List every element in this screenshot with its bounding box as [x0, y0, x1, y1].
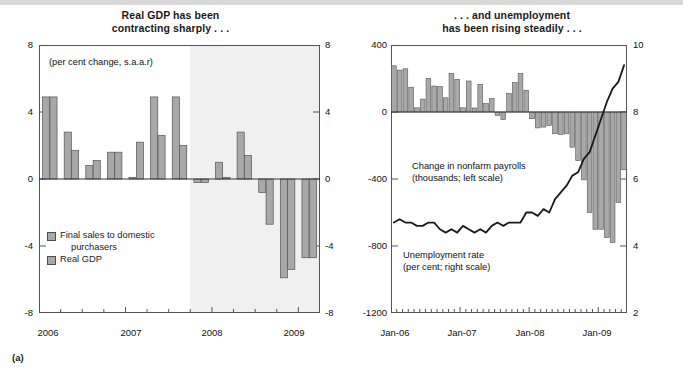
gdp-chart-panel: Real GDP has been contracting sharply . …	[0, 0, 341, 374]
labour-ytick-left-neg800: -800	[343, 241, 387, 251]
gdp-chart-svg	[39, 45, 320, 313]
gdp-xtick-2009: 2009	[271, 328, 317, 338]
gdp-ytick-right-neg8: -8	[325, 308, 333, 318]
labour-chart-panel: . . . and unemployment has been rising s…	[341, 0, 683, 374]
gdp-ytick-left-neg8: -8	[8, 308, 33, 318]
labour-chart-title-line2: has been rising steadily . . .	[341, 22, 683, 35]
unemployment-annotation: Unemployment rate (per cent; right scale…	[403, 250, 490, 273]
gdp-xtick-2008: 2008	[189, 328, 235, 338]
payrolls-annotation-line1: Change in nonfarm payrolls	[412, 161, 526, 171]
labour-xtick-jan07: Jan-07	[436, 328, 488, 338]
gdp-ytick-right-neg4: -4	[325, 241, 333, 251]
labour-ytick-right-4: 4	[633, 241, 638, 251]
gdp-xtick-2007: 2007	[108, 328, 154, 338]
gdp-chart-title-line1: Real GDP has been	[122, 9, 220, 21]
legend-item-real-gdp: Real GDP	[47, 254, 155, 266]
gdp-ytick-right-4: 4	[325, 107, 330, 117]
legend-label-real-gdp: Real GDP	[60, 254, 102, 264]
labour-chart-title: . . . and unemployment has been rising s…	[341, 9, 683, 35]
gdp-legend: Final sales to domestic purchasers Real …	[47, 230, 155, 267]
unemployment-annotation-line1: Unemployment rate	[403, 250, 484, 260]
gdp-ytick-left-4: 4	[8, 107, 33, 117]
unemployment-annotation-line2: (per cent; right scale)	[403, 262, 490, 272]
gdp-ytick-right-8: 8	[325, 40, 330, 50]
payrolls-annotation-line2: (thousands; left scale)	[412, 173, 503, 183]
labour-chart-title-line1: . . . and unemployment	[454, 9, 570, 21]
labour-xtick-jan08: Jan-08	[504, 328, 556, 338]
legend-label-final-sales: Final sales to domestic	[60, 230, 155, 240]
labour-xtick-jan06: Jan-06	[369, 328, 421, 338]
legend-swatch-real-gdp	[47, 256, 56, 265]
figure-label: (a)	[12, 352, 24, 363]
gdp-units-note: (per cent change, s.a.a.r)	[49, 57, 153, 69]
labour-ytick-right-8: 8	[633, 107, 638, 117]
legend-label-final-sales-cont: purchasers	[60, 242, 155, 254]
legend-item-final-sales: Final sales to domestic purchasers	[47, 230, 155, 253]
legend-swatch-final-sales	[47, 232, 56, 241]
labour-ytick-right-10: 10	[633, 40, 644, 50]
labour-ytick-right-2: 2	[633, 308, 638, 318]
labour-ytick-left-neg1200: -1200	[343, 308, 387, 318]
gdp-ytick-left-0: 0	[8, 174, 33, 184]
labour-ytick-left-neg400: -400	[343, 174, 387, 184]
gdp-xtick-2006: 2006	[25, 328, 71, 338]
payrolls-annotation: Change in nonfarm payrolls (thousands; l…	[412, 161, 526, 184]
gdp-ytick-right-0: 0	[325, 174, 330, 184]
gdp-ytick-left-neg4: -4	[8, 241, 33, 251]
gdp-chart-title-line2: contracting sharply . . .	[0, 22, 341, 35]
labour-ytick-right-6: 6	[633, 174, 638, 184]
labour-xtick-jan09: Jan-09	[571, 328, 623, 338]
labour-ytick-left-0: 0	[343, 107, 387, 117]
gdp-ytick-left-8: 8	[8, 40, 33, 50]
labour-ytick-left-400: 400	[343, 40, 387, 50]
gdp-plot-area	[39, 45, 320, 313]
gdp-chart-title: Real GDP has been contracting sharply . …	[0, 9, 341, 35]
